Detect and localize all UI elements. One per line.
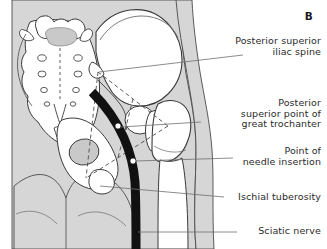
label-line: Posterior superior [235, 36, 321, 47]
label-point-of-needle-insertion: Point of needle insertion [243, 146, 321, 167]
label-posterior-superior-iliac-spine: Posterior superior iliac spine [235, 36, 321, 57]
sacral-foramen-r1 [74, 55, 82, 61]
label-line: great trochanter [241, 119, 321, 130]
vertebral-body-shading [45, 28, 76, 46]
panel-label-b: B [305, 10, 313, 22]
label-sciatic-nerve: Sciatic nerve [258, 226, 321, 237]
label-line: needle insertion [243, 157, 321, 168]
ischial-tuberosity [89, 169, 114, 194]
label-ischial-tuberosity: Ischial tuberosity [238, 192, 321, 203]
sacral-foramen-r4 [70, 102, 76, 106]
sacral-foramen-l4 [44, 102, 50, 106]
sacral-foramen-l3 [41, 87, 48, 92]
label-posterior-superior-point-of-great-trochanter: Posterior superior point of great trocha… [241, 98, 321, 130]
label-line: iliac spine [235, 47, 321, 58]
femur-shaft [158, 158, 188, 249]
sacral-foramen-r2 [74, 71, 82, 77]
sacral-foramen-l1 [38, 55, 46, 61]
label-line: Point of [243, 146, 321, 157]
landmark-dot-great-trochanter [115, 123, 121, 129]
label-line: Posterior [241, 98, 321, 109]
anatomical-figure: B Posterior superior iliac spine Posteri… [0, 0, 327, 249]
label-line: Ischial tuberosity [238, 192, 321, 203]
sacral-foramen-r3 [73, 87, 80, 92]
landmark-dot-needle-insertion [130, 158, 136, 164]
label-line: Sciatic nerve [258, 226, 321, 237]
sacral-foramen-l2 [38, 71, 46, 77]
